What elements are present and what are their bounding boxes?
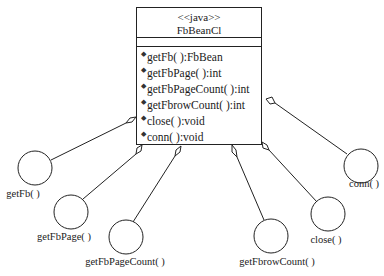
interface-label-getFbrowCount: getFbrowCount( ) [239,256,315,267]
connector-getFbPage [83,154,136,199]
aggregation-diamond-conn [266,97,275,104]
method-item[interactable]: ◆conn( ):void [141,129,261,145]
connector-getFbrowCount [237,157,264,220]
methods-compartment: ◆getFb( ):FbBean ◆getFbPage( ):int ◆getF… [137,47,261,145]
interface-label-getFbPage: getFbPage( ) [37,231,91,242]
connector-getFbPageCount [133,156,175,222]
aggregation-diamond-close [262,142,269,150]
method-signature: close( ):void [147,115,205,127]
method-icon: ◆ [141,114,146,122]
method-signature: conn( ):void [147,131,204,143]
attributes-compartment [137,38,261,47]
interface-label-getFb: getFb( ) [6,188,40,199]
method-signature: getFbPage( ):int [147,67,221,79]
interface-circle-getFbrowCount[interactable] [254,219,288,253]
method-signature: getFbrowCount( ):int [147,99,245,111]
method-icon: ◆ [141,130,146,138]
class-stereotype: <<java>> [137,11,261,24]
method-icon: ◆ [141,82,146,90]
method-item[interactable]: ◆close( ):void [141,113,261,129]
method-signature: getFbPageCount( ):int [147,83,250,95]
method-item[interactable]: ◆getFbrowCount( ):int [141,97,261,113]
method-item[interactable]: ◆getFbPage( ):int [141,65,261,81]
interface-circle-close[interactable] [311,197,345,231]
method-icon: ◆ [141,66,146,74]
method-item[interactable]: ◆getFbPageCount( ):int [141,81,261,97]
aggregation-diamond-getFbPage [136,145,142,154]
aggregation-diamond-getFb [126,117,136,123]
interface-label-conn: conn( ) [349,178,379,189]
method-item[interactable]: ◆getFb( ):FbBean [141,49,261,65]
interface-circle-getFbPage[interactable] [54,195,88,229]
interface-circle-getFb[interactable] [18,151,52,185]
method-icon: ◆ [141,50,146,58]
method-icon: ◆ [141,98,146,106]
connector-conn [275,103,347,154]
class-box[interactable]: <<java>> FbBeanCl ◆getFb( ):FbBean ◆getF… [136,7,262,145]
aggregation-diamond-getFbPageCount [175,146,181,156]
interface-circle-getFbPageCount[interactable] [109,220,143,254]
class-header: <<java>> FbBeanCl [137,8,261,38]
connector-close [269,150,317,202]
connector-getFb [51,123,126,160]
class-name: FbBeanCl [137,24,261,37]
interface-label-close: close( ) [310,234,341,245]
interface-label-getFbPageCount: getFbPageCount( ) [85,256,165,267]
aggregation-diamond-getFbrowCount [232,145,237,157]
method-signature: getFb( ):FbBean [147,51,223,63]
